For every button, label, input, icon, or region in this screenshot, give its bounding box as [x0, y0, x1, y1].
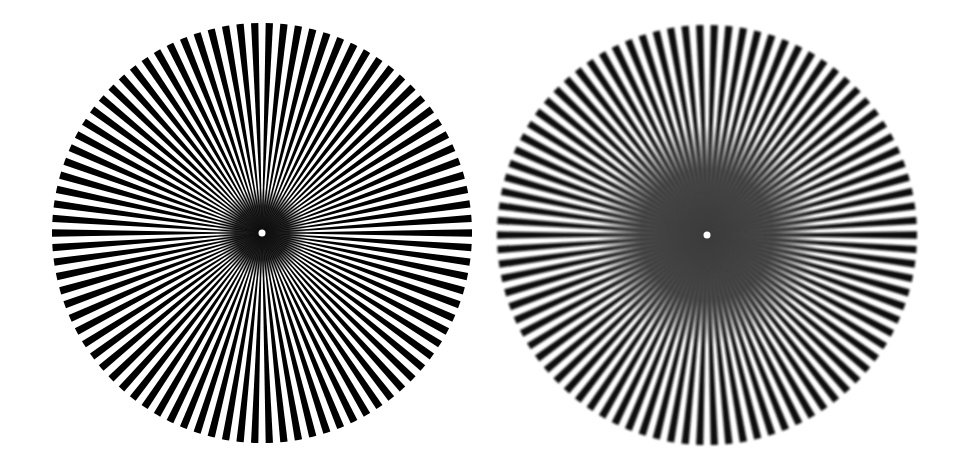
sharp-siemens-star-image — [52, 23, 472, 443]
center-dot — [259, 230, 266, 237]
figure-panel — [0, 0, 966, 470]
siemens-star-comparison — [0, 0, 966, 470]
blurred-siemens-star-image — [497, 25, 917, 445]
center-dot — [704, 232, 711, 239]
